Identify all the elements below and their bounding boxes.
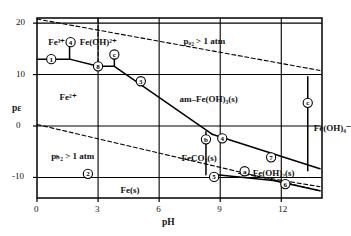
marker-label: a: [243, 168, 247, 176]
marker-b: b: [201, 135, 210, 144]
marker-label: c: [113, 51, 116, 59]
y-tick-label: 0: [16, 120, 21, 130]
marker-4: 4: [66, 38, 75, 47]
x-tick-label: 0: [34, 204, 39, 214]
marker-5: 5: [210, 172, 219, 181]
x-tick-label: 9: [217, 204, 222, 214]
species-label-feoh2s: Fe(OH)₂(s): [253, 169, 295, 178]
species-label-fe2plus: Fe²⁺: [59, 93, 76, 102]
marker-c: c: [303, 98, 312, 107]
species-label-fes: Fe(s): [120, 186, 139, 195]
marker-label: 2: [86, 170, 90, 178]
marker-7: 7: [267, 153, 276, 162]
marker-2: 2: [83, 169, 92, 178]
marker-6: 6: [281, 180, 290, 189]
y-tick-label: 20: [16, 17, 25, 27]
species-label-feco3: FeCO₃(s): [182, 154, 217, 163]
marker-label: 3: [139, 78, 143, 86]
marker-label: 5: [212, 173, 216, 181]
x-tick-label: 6: [156, 204, 161, 214]
marker-label: 4: [69, 39, 73, 47]
species-label-fe3plus: Fe³⁺: [48, 38, 65, 47]
species-label-am-feoh3: am–Fe(OH)₃(s): [180, 95, 238, 104]
x-axis-title: pH: [162, 218, 175, 228]
marker-3: 3: [136, 77, 145, 86]
marker-1: 1: [47, 55, 56, 64]
species-label-ph2: pₕ₂ > 1 atm: [51, 152, 94, 161]
marker-a: a: [240, 167, 249, 176]
marker-8: 8: [93, 62, 102, 71]
y-axis-title: pε: [12, 104, 21, 114]
x-tick-label: 3: [95, 204, 100, 214]
species-label-feoh4minus: Fe(OH)₄⁻: [314, 124, 351, 133]
species-label-feoh2plus: Fe(OH)²⁺: [80, 38, 117, 47]
marker-4: 4: [218, 134, 227, 143]
marker-label: 4: [221, 135, 225, 143]
marker-c: c: [110, 50, 119, 59]
y-tick-label: -10: [12, 171, 24, 181]
species-label-po2: pₒ₂ > 1 atm: [184, 37, 226, 46]
marker-label: b: [204, 136, 208, 144]
y-tick-label: 10: [16, 69, 25, 79]
marker-label: 7: [269, 154, 273, 162]
marker-label: 8: [96, 63, 100, 71]
marker-label: c: [306, 99, 309, 107]
x-tick-label: 12: [278, 204, 287, 214]
marker-label: 6: [284, 181, 288, 189]
marker-label: 1: [50, 56, 54, 64]
